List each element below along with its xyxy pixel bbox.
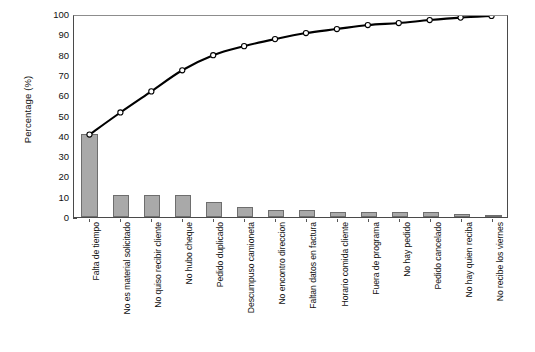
y-axis-tick-label: 10 xyxy=(43,193,69,203)
x-axis-category-label: Pedido cancelado xyxy=(434,222,443,290)
x-axis-category-label: No hubo cheque xyxy=(185,222,194,284)
x-axis-tick-mark xyxy=(430,219,431,222)
x-axis-category-label: Pedido duplicado xyxy=(216,222,225,287)
x-axis-tick-mark xyxy=(461,219,462,222)
y-axis-tick-label: 60 xyxy=(43,91,69,101)
y-axis-tick-label: 40 xyxy=(43,132,69,142)
cumulative-line-marker xyxy=(334,26,339,31)
x-axis-tick-mark xyxy=(337,219,338,222)
cumulative-line-marker xyxy=(211,53,216,58)
cumulative-line-marker xyxy=(118,110,123,115)
cumulative-line-marker xyxy=(303,31,308,36)
cumulative-line-marker xyxy=(87,132,92,137)
cumulative-line-marker xyxy=(489,16,494,19)
cumulative-line-marker xyxy=(149,89,154,94)
x-axis-tick-mark xyxy=(213,219,214,222)
x-axis-category-label: Horario comida cliente xyxy=(341,222,350,306)
x-axis-tick-mark xyxy=(182,219,183,222)
x-axis-category-label: Faltan datos en factura xyxy=(309,222,318,309)
y-axis-tick-label: 30 xyxy=(43,152,69,162)
x-axis-category-label: Falta de tiempo xyxy=(92,222,101,280)
plot-area xyxy=(73,15,508,218)
x-axis-tick-mark xyxy=(151,219,152,222)
x-axis-category-label: Descumpuso camioneta xyxy=(247,222,256,313)
y-axis-tick-label: 70 xyxy=(43,71,69,81)
y-axis-tick-label: 80 xyxy=(43,51,69,61)
cumulative-line-marker xyxy=(427,17,432,22)
x-axis-tick-mark xyxy=(244,219,245,222)
y-axis-title: Percentage (%) xyxy=(22,50,33,170)
y-axis-tick-label: 100 xyxy=(43,10,69,20)
x-axis-tick-mark xyxy=(120,219,121,222)
cumulative-line-marker xyxy=(272,37,277,42)
x-axis-category-label: No es material solicitado xyxy=(123,222,132,314)
x-axis-tick-mark xyxy=(368,219,369,222)
x-axis-category-label: No encontro direccion xyxy=(278,222,287,305)
cumulative-line-marker xyxy=(242,44,247,49)
cumulative-line-series xyxy=(74,16,507,217)
cumulative-line-marker xyxy=(180,68,185,73)
x-axis-category-label: Fuera de programa xyxy=(372,222,381,295)
cumulative-line-marker xyxy=(396,20,401,25)
x-axis-category-label: No hay pedido xyxy=(403,222,412,277)
y-axis-tick-mark xyxy=(73,218,77,219)
x-axis-tick-mark xyxy=(275,219,276,222)
x-axis-tick-mark xyxy=(89,219,90,222)
x-axis-category-label: No quiso recibir cliente xyxy=(154,222,163,308)
cumulative-line-marker xyxy=(458,16,463,20)
x-axis-category-label: No hay quien reciba xyxy=(465,222,474,298)
y-axis-tick-label: 50 xyxy=(43,112,69,122)
cumulative-line xyxy=(89,16,491,135)
y-axis-tick-label: 90 xyxy=(43,30,69,40)
x-axis-tick-mark xyxy=(399,219,400,222)
y-axis-tick-label: 0 xyxy=(43,213,69,223)
cumulative-line-marker xyxy=(365,22,370,27)
y-axis-tick-label: 20 xyxy=(43,172,69,182)
x-axis-tick-mark xyxy=(492,219,493,222)
x-axis-category-label: No recibe los viernes xyxy=(496,222,505,301)
pareto-chart: Percentage (%) 0102030405060708090100 Fa… xyxy=(0,0,535,352)
x-axis-tick-mark xyxy=(306,219,307,222)
